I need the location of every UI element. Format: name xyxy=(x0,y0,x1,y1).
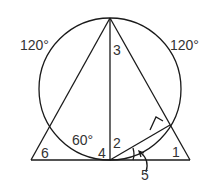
right-angle-marker xyxy=(150,117,163,130)
angle-1-label: 1 xyxy=(172,144,180,160)
angle-5-label: 5 xyxy=(141,167,149,183)
angle-5-arc xyxy=(133,148,134,160)
angle-3-label: 3 xyxy=(113,42,121,58)
arc-left-label: 120° xyxy=(20,37,49,53)
arc-right-label: 120° xyxy=(170,37,199,53)
geometry-diagram: 120° 120° 60° 3 2 4 6 1 5 xyxy=(0,0,205,185)
angle-6-label: 6 xyxy=(41,145,49,161)
angle-4-label: 4 xyxy=(98,145,106,161)
angle-60-label: 60° xyxy=(72,132,93,148)
angle-2-label: 2 xyxy=(113,135,121,151)
